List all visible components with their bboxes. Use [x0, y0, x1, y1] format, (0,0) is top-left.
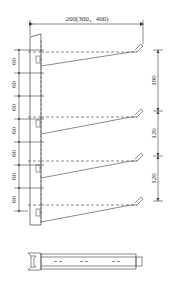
left-dim-label-4: 60: [10, 127, 18, 135]
left-dim-label-2: 60: [10, 81, 18, 89]
right-dim-label-1: 180: [150, 75, 158, 86]
right-dim-label-2: 120: [150, 128, 158, 139]
left-dim-label-1: 60: [10, 58, 18, 66]
arm-3: [28, 153, 143, 178]
left-dim-label-7: 60: [10, 196, 18, 204]
left-dim-label-6: 60: [10, 173, 18, 181]
right-dim-label-3: 120: [150, 173, 158, 184]
left-dim-label-3: 60: [10, 104, 18, 112]
arm-1: [28, 44, 143, 66]
left-dim-label-5: 60: [10, 150, 18, 158]
post: [30, 34, 41, 225]
arm-4: [28, 197, 143, 222]
bracket-drawing: 200(300、400): [0, 0, 171, 286]
top-dimension-label: 200(300、400): [65, 15, 109, 23]
arm-2: [28, 109, 143, 134]
top-dimension: [30, 20, 143, 44]
